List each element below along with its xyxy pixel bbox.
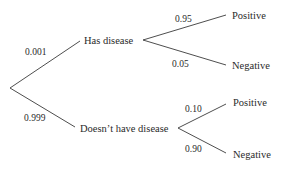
node-no-disease: Doesn’t have disease — [80, 123, 169, 134]
probability-tree-diagram: 0.001 0.999 Has disease Doesn’t have dis… — [0, 0, 282, 171]
prob-no-disease-negative: 0.90 — [185, 144, 202, 154]
leaf-has-disease-positive: Positive — [232, 10, 266, 21]
leaf-no-disease-positive: Positive — [233, 97, 267, 108]
prob-has-disease-positive: 0.95 — [175, 14, 192, 24]
node-has-disease: Has disease — [84, 35, 134, 46]
leaf-has-disease-negative: Negative — [232, 60, 270, 71]
prob-no-disease: 0.999 — [24, 113, 46, 123]
prob-no-disease-positive: 0.10 — [185, 104, 202, 114]
leaf-no-disease-negative: Negative — [233, 149, 271, 160]
prob-has-disease: 0.001 — [25, 47, 47, 57]
prob-has-disease-negative: 0.05 — [172, 59, 189, 69]
